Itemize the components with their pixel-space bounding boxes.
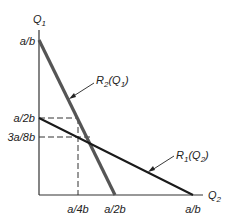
r2-pointer-arrow (72, 83, 94, 97)
x-axis-label: Q2 (208, 189, 222, 204)
x-tick-a-over-b: a/b (185, 203, 200, 215)
r2-label: R2(Q1) (96, 74, 129, 89)
r1-arrowhead-icon (148, 166, 155, 172)
y-axis-label: Q1 (33, 13, 46, 28)
r1-reaction-line (39, 118, 193, 195)
r2-arrowhead-icon (69, 93, 76, 99)
x-tick-a-over-4b: a/4b (67, 203, 88, 215)
y-tick-a-over-2b: a/2b (14, 112, 35, 124)
reaction-function-diagram: Q1 Q2 a/b a/2b 3a/8b a/4b a/2b a/b R2(Q1… (0, 0, 237, 222)
r1-pointer-arrow (152, 156, 174, 170)
y-tick-3a-over-8b: 3a/8b (7, 131, 35, 143)
x-tick-a-over-2b: a/2b (104, 203, 125, 215)
r1-label: R1(Q2) (176, 149, 209, 164)
y-tick-a-over-b: a/b (20, 35, 35, 47)
